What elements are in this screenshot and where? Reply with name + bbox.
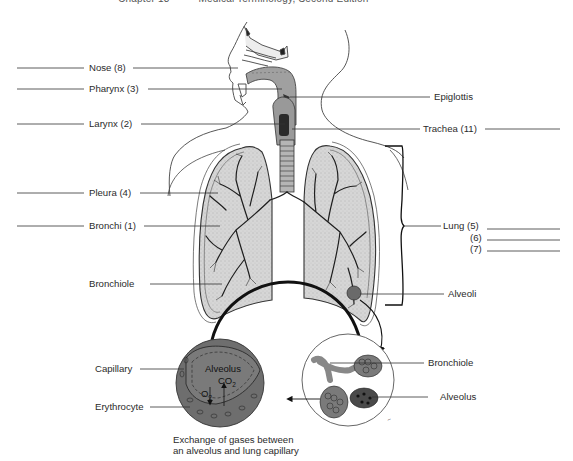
caption-line-2: an alveolus and lung capillary <box>173 445 299 456</box>
figure-caption: Exchange of gases between an alveolus an… <box>173 434 299 456</box>
co2-symbol: CO <box>218 375 232 386</box>
label-lung-7: (7) <box>470 243 482 254</box>
label-bronchi: Bronchi (1) <box>89 220 136 231</box>
alveoli-marker <box>347 286 361 300</box>
o2-label: O2 <box>201 388 212 401</box>
label-inset-alveolus: Alveolus <box>440 391 476 402</box>
label-erythrocyte: Erythrocyte <box>95 401 144 412</box>
co2-subscript: 2 <box>232 381 236 388</box>
respiratory-system-illustration: ~ <box>0 0 573 461</box>
co2-label: CO2 <box>218 375 236 388</box>
inner-alveolus-label: Alveolus <box>205 363 241 374</box>
label-epiglottis: Epiglottis <box>434 91 473 102</box>
lung-bracket <box>385 146 404 305</box>
label-pleura: Pleura (4) <box>89 187 131 198</box>
label-alveoli: Alveoli <box>448 288 476 299</box>
label-nose: Nose (8) <box>89 62 126 73</box>
capillary-inset <box>140 339 264 427</box>
label-inset-bronchiole: Bronchiole <box>428 357 473 368</box>
o2-subscript: 2 <box>208 394 212 401</box>
label-larynx: Larynx (2) <box>89 118 132 129</box>
label-bronchiole: Bronchiole <box>89 278 134 289</box>
label-trachea: Trachea (11) <box>423 123 477 134</box>
label-lung: Lung (5) <box>443 220 479 231</box>
svg-text:~: ~ <box>386 416 393 423</box>
label-pharynx: Pharynx (3) <box>89 83 139 94</box>
label-capillary: Capillary <box>95 363 132 374</box>
label-lung-6: (6) <box>470 232 482 243</box>
alveoli-inset <box>288 334 428 426</box>
caption-line-1: Exchange of gases between <box>173 434 299 445</box>
